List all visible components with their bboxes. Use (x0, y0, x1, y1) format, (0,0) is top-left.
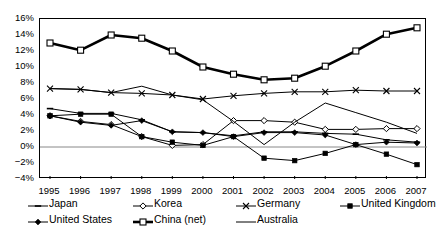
legend-row-1: JapanKoreaGermanyUnited Kingdom (28, 196, 428, 211)
legend-item-united-kingdom[interactable]: United Kingdom (340, 196, 436, 211)
legend-marker-filled-square-icon (340, 198, 360, 210)
legend-marker-open-diamond-icon (133, 198, 153, 210)
x-tick-label: 2007 (405, 186, 426, 196)
legend-item-china-net[interactable]: China (net) (133, 212, 206, 227)
legend-label: Japan (48, 198, 78, 209)
legend-item-korea[interactable]: Korea (133, 196, 182, 211)
x-tick-label: 1998 (130, 186, 151, 196)
x-tick-label: 2005 (344, 186, 365, 196)
legend-label: Australia (256, 214, 298, 225)
legend-label: Korea (153, 198, 182, 209)
x-tick-label: 1997 (100, 186, 121, 196)
legend-item-australia[interactable]: Australia (236, 212, 298, 227)
x-tick-label: 2004 (314, 186, 335, 196)
x-tick-label: 1996 (69, 186, 90, 196)
x-tick-label: 2002 (253, 186, 274, 196)
legend-marker-dash-icon (28, 198, 48, 210)
legend-marker-filled-diamond-icon (28, 214, 48, 226)
legend-item-germany[interactable]: Germany (236, 196, 300, 211)
legend-item-united-states[interactable]: United States (28, 212, 112, 227)
legend-item-japan[interactable]: Japan (28, 196, 78, 211)
legend-label: Germany (256, 198, 300, 209)
legend-label: United Kingdom (360, 198, 436, 209)
x-tick-label: 2000 (191, 186, 212, 196)
legend-marker-x-star-icon (236, 198, 256, 210)
legend-row-2: United StatesChina (net)Australia (28, 212, 428, 227)
legend-label: China (net) (153, 214, 206, 225)
x-tick-label: 1999 (161, 186, 182, 196)
x-tick-label: 1995 (38, 186, 59, 196)
legend-marker-none-icon (236, 214, 256, 226)
chart-legend: JapanKoreaGermanyUnited Kingdom United S… (28, 196, 428, 230)
legend-marker-open-square-icon (133, 214, 153, 226)
x-tick-label: 2003 (283, 186, 304, 196)
x-tick-label: 2001 (222, 186, 243, 196)
x-tick-label: 2006 (375, 186, 396, 196)
legend-label: United States (48, 214, 112, 225)
